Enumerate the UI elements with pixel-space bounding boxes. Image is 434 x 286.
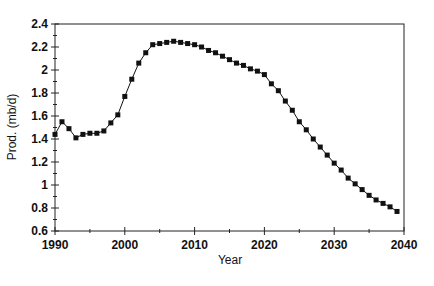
data-point-marker bbox=[367, 193, 372, 198]
data-point-marker bbox=[206, 48, 211, 53]
data-point-marker bbox=[353, 181, 358, 186]
data-point-marker bbox=[325, 153, 330, 158]
x-tick-label: 2000 bbox=[111, 238, 138, 252]
data-point-marker bbox=[339, 168, 344, 173]
data-point-marker bbox=[332, 161, 337, 166]
data-point-marker bbox=[143, 50, 148, 55]
data-point-marker bbox=[388, 204, 393, 209]
data-point-marker bbox=[276, 88, 281, 93]
data-point-marker bbox=[381, 201, 386, 206]
data-point-marker bbox=[101, 128, 106, 133]
data-point-marker bbox=[53, 132, 58, 137]
data-series bbox=[53, 39, 400, 214]
data-point-marker bbox=[59, 119, 64, 124]
x-tick-label: 2010 bbox=[181, 238, 208, 252]
x-tick-label: 2020 bbox=[251, 238, 278, 252]
data-point-marker bbox=[262, 72, 267, 77]
data-point-marker bbox=[290, 108, 295, 113]
data-point-marker bbox=[178, 40, 183, 45]
y-tick-label: 1.4 bbox=[31, 132, 48, 146]
data-point-marker bbox=[241, 63, 246, 68]
y-tick-label: 0.6 bbox=[31, 224, 48, 238]
data-point-marker bbox=[66, 126, 71, 131]
data-point-marker bbox=[164, 40, 169, 45]
series-line bbox=[55, 41, 397, 211]
x-tick-label: 2030 bbox=[321, 238, 348, 252]
data-point-marker bbox=[157, 41, 162, 46]
data-point-marker bbox=[80, 132, 85, 137]
data-point-marker bbox=[311, 137, 316, 142]
y-tick-label: 2 bbox=[41, 63, 48, 77]
y-tick-label: 1.8 bbox=[31, 86, 48, 100]
data-point-marker bbox=[150, 42, 155, 47]
data-point-marker bbox=[136, 61, 141, 66]
data-point-marker bbox=[304, 127, 309, 132]
data-point-marker bbox=[129, 77, 134, 82]
data-point-marker bbox=[122, 94, 127, 99]
data-point-marker bbox=[269, 81, 274, 86]
y-tick-label: 0.8 bbox=[31, 201, 48, 215]
data-point-marker bbox=[220, 54, 225, 59]
data-point-marker bbox=[297, 119, 302, 124]
y-tick-label: 1.2 bbox=[31, 155, 48, 169]
y-axis-label: Prod. (mb/d) bbox=[5, 94, 19, 161]
data-point-marker bbox=[115, 112, 120, 117]
data-point-marker bbox=[94, 131, 99, 136]
data-point-marker bbox=[192, 42, 197, 47]
data-point-marker bbox=[283, 99, 288, 104]
data-point-marker bbox=[108, 120, 113, 125]
data-point-marker bbox=[318, 145, 323, 150]
data-point-marker bbox=[360, 187, 365, 192]
chart: 0.60.811.21.41.61.822.22.4 1990200020102… bbox=[0, 0, 434, 286]
data-point-marker bbox=[248, 66, 253, 71]
x-tick-label: 2040 bbox=[391, 238, 418, 252]
data-point-marker bbox=[395, 209, 400, 214]
data-point-marker bbox=[73, 135, 78, 140]
y-tick-label: 2.2 bbox=[31, 40, 48, 54]
y-tick-label: 1.6 bbox=[31, 109, 48, 123]
x-axis-label: Year bbox=[218, 253, 242, 267]
data-point-marker bbox=[234, 61, 239, 66]
data-point-marker bbox=[227, 57, 232, 62]
data-point-marker bbox=[255, 69, 260, 74]
data-point-marker bbox=[171, 39, 176, 44]
data-point-marker bbox=[199, 45, 204, 50]
data-point-marker bbox=[346, 176, 351, 181]
data-point-marker bbox=[374, 197, 379, 202]
y-tick-label: 2.4 bbox=[31, 17, 48, 31]
data-point-marker bbox=[87, 131, 92, 136]
y-tick-label: 1 bbox=[41, 178, 48, 192]
data-point-marker bbox=[185, 41, 190, 46]
x-tick-label: 1990 bbox=[42, 238, 69, 252]
data-point-marker bbox=[213, 50, 218, 55]
